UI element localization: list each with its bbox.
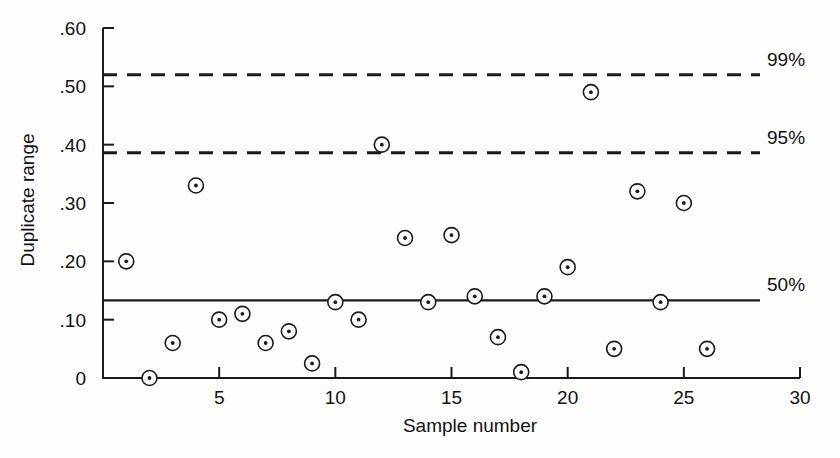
data-point <box>374 137 389 152</box>
data-point <box>560 260 575 275</box>
data-point <box>235 306 250 321</box>
reference-line-label-50pct: 50% <box>767 274 805 295</box>
data-point <box>142 371 157 386</box>
data-point <box>351 312 366 327</box>
data-point <box>328 295 343 310</box>
data-point <box>514 365 529 380</box>
data-point-center-dot <box>682 201 686 205</box>
data-point <box>537 289 552 304</box>
data-point-center-dot <box>264 341 268 345</box>
axis-lines <box>103 28 800 378</box>
data-point <box>281 324 296 339</box>
data-point-center-dot <box>333 300 337 304</box>
data-point-center-dot <box>589 90 593 94</box>
data-point-center-dot <box>357 318 361 322</box>
y-tick-label: .10 <box>60 310 86 331</box>
data-point-center-dot <box>426 300 430 304</box>
data-point <box>607 341 622 356</box>
y-axis-title: Duplicate range <box>17 133 38 266</box>
axes-group <box>103 28 800 378</box>
duplicate-range-control-chart: 0.10.20.30.40.50.60 51015202530 99%95%50… <box>0 0 840 458</box>
chart-canvas: 0.10.20.30.40.50.60 51015202530 99%95%50… <box>0 0 840 458</box>
data-point <box>212 312 227 327</box>
x-tick-label: 15 <box>441 387 462 408</box>
data-point <box>676 196 691 211</box>
reference-line-label-99pct: 99% <box>767 49 805 70</box>
data-point-center-dot <box>635 189 639 193</box>
x-tick-label: 25 <box>673 387 694 408</box>
data-point-center-dot <box>287 329 291 333</box>
data-point <box>188 178 203 193</box>
data-point <box>444 228 459 243</box>
x-axis-title: Sample number <box>403 415 538 436</box>
y-tick-label: .30 <box>60 193 86 214</box>
x-tick-label: 20 <box>557 387 578 408</box>
data-point <box>630 184 645 199</box>
x-tick-label: 30 <box>789 387 810 408</box>
data-point <box>421 295 436 310</box>
data-point-group <box>119 85 715 386</box>
data-point <box>119 254 134 269</box>
data-point-center-dot <box>403 236 407 240</box>
data-point <box>490 330 505 345</box>
x-tick-label: 10 <box>325 387 346 408</box>
data-point-center-dot <box>566 265 570 269</box>
data-point-center-dot <box>148 376 152 380</box>
data-point-center-dot <box>380 143 384 147</box>
data-point-center-dot <box>124 259 128 263</box>
reference-lines-group: 99%95%50% <box>103 49 805 301</box>
data-point-center-dot <box>241 312 245 316</box>
y-tick-label: 0 <box>75 368 86 389</box>
y-tick-label: .50 <box>60 76 86 97</box>
data-point-center-dot <box>519 370 523 374</box>
data-point-center-dot <box>473 294 477 298</box>
y-tick-label: .60 <box>60 18 86 39</box>
data-point <box>583 85 598 100</box>
data-point-center-dot <box>496 335 500 339</box>
data-point <box>258 336 273 351</box>
y-tick-label: .40 <box>60 135 86 156</box>
x-axis-tick-group: 51015202530 <box>214 367 811 408</box>
data-point-center-dot <box>194 184 198 188</box>
data-point <box>700 341 715 356</box>
data-point <box>165 336 180 351</box>
data-point-center-dot <box>217 318 221 322</box>
data-point-center-dot <box>612 347 616 351</box>
data-point-center-dot <box>450 233 454 237</box>
data-point-center-dot <box>310 362 314 366</box>
data-point-center-dot <box>659 300 663 304</box>
data-point <box>305 356 320 371</box>
data-point <box>467 289 482 304</box>
data-point-center-dot <box>543 294 547 298</box>
data-point <box>653 295 668 310</box>
data-point-center-dot <box>705 347 709 351</box>
reference-line-label-95pct: 95% <box>767 127 805 148</box>
x-tick-label: 5 <box>214 387 225 408</box>
data-point-center-dot <box>171 341 175 345</box>
data-point <box>398 231 413 246</box>
y-tick-label: .20 <box>60 251 86 272</box>
